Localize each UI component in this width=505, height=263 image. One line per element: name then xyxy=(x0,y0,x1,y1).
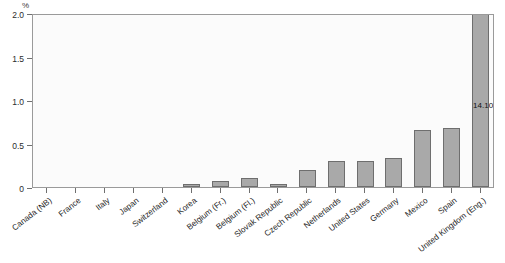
y-axis-tick-label: 1.0 xyxy=(0,97,24,107)
x-axis-tick xyxy=(364,188,365,193)
x-axis-tick xyxy=(422,188,423,193)
x-axis-tick xyxy=(75,188,76,193)
y-axis-tick-label: 2.0 xyxy=(0,10,24,20)
x-axis-tick xyxy=(104,188,105,193)
y-axis-tick-label: 1.5 xyxy=(0,54,24,64)
x-axis-tick xyxy=(451,188,452,193)
y-axis-tick-label: 0.5 xyxy=(0,141,24,151)
y-axis-tick-label: 0 xyxy=(0,184,24,194)
x-axis-tick xyxy=(277,188,278,193)
bar-chart: % 14.10 00.51.01.52.0 Canada (NB)FranceI… xyxy=(0,0,505,263)
x-axis-tick xyxy=(335,188,336,193)
y-axis-tick xyxy=(27,101,32,102)
x-axis-tick xyxy=(162,188,163,193)
x-axis-tick xyxy=(46,188,47,193)
x-axis-tick xyxy=(249,188,250,193)
x-axis-tick xyxy=(306,188,307,193)
x-axis-tick xyxy=(133,188,134,193)
y-axis-tick xyxy=(27,58,32,59)
x-axis-tick xyxy=(191,188,192,193)
x-axis-tick xyxy=(220,188,221,193)
y-axis-tick xyxy=(27,188,32,189)
x-axis-tick xyxy=(393,188,394,193)
y-axis-tick xyxy=(27,145,32,146)
y-axis-tick xyxy=(27,14,32,15)
x-axis-tick xyxy=(480,188,481,193)
